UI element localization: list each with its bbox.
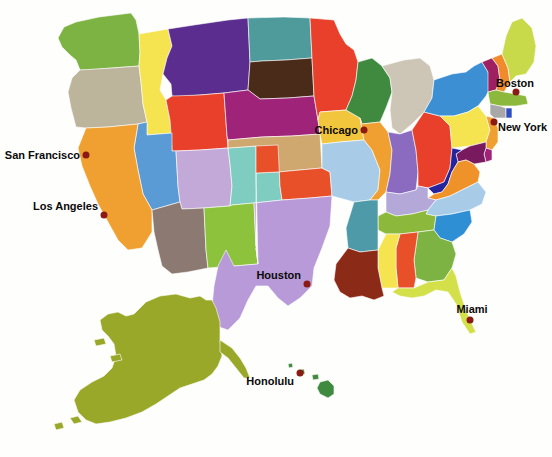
us-map-svg bbox=[0, 0, 552, 457]
state-ND[interactable] bbox=[248, 17, 312, 62]
state-AR[interactable] bbox=[346, 200, 378, 252]
city-marker-san-francisco[interactable] bbox=[83, 152, 90, 159]
city-marker-honolulu[interactable] bbox=[297, 370, 304, 377]
city-marker-houston[interactable] bbox=[304, 281, 311, 288]
state-RI[interactable] bbox=[506, 108, 512, 118]
city-marker-miami[interactable] bbox=[467, 317, 474, 324]
city-marker-new-york[interactable] bbox=[491, 119, 498, 126]
state-NY[interactable] bbox=[424, 62, 492, 116]
state-AK-panhandle bbox=[220, 340, 250, 378]
state-HI-bigisland[interactable] bbox=[317, 380, 334, 398]
state-HI-kauai bbox=[288, 363, 293, 368]
state-AK-island-1 bbox=[94, 338, 106, 346]
state-MA[interactable] bbox=[488, 90, 528, 106]
city-label-honolulu: Honolulu bbox=[246, 376, 294, 387]
city-label-boston: Boston bbox=[496, 78, 534, 89]
state-SD[interactable] bbox=[248, 58, 314, 99]
state-UT[interactable] bbox=[176, 148, 232, 209]
state-IN[interactable] bbox=[386, 130, 418, 194]
state-LA[interactable] bbox=[334, 248, 384, 300]
city-label-houston: Houston bbox=[256, 270, 301, 281]
state-AZ[interactable] bbox=[152, 202, 208, 274]
city-label-los-angeles: Los Angeles bbox=[33, 201, 98, 212]
state-WA[interactable] bbox=[58, 13, 140, 70]
state-NM[interactable] bbox=[204, 203, 258, 268]
state-AK-aleutian-1 bbox=[70, 416, 82, 424]
us-map: San Francisco Los Angeles Chicago Housto… bbox=[0, 0, 552, 457]
city-marker-boston[interactable] bbox=[513, 89, 520, 96]
state-AK-aleutian-2 bbox=[54, 422, 64, 430]
state-AK[interactable] bbox=[74, 294, 222, 424]
city-label-chicago: Chicago bbox=[315, 125, 358, 136]
state-MT[interactable] bbox=[163, 18, 250, 97]
state-HI-maui bbox=[312, 374, 319, 380]
city-marker-los-angeles[interactable] bbox=[101, 212, 108, 219]
state-OR[interactable] bbox=[68, 66, 147, 128]
city-label-new-york: New York bbox=[498, 122, 547, 133]
city-label-miami: Miami bbox=[456, 304, 487, 315]
state-WY[interactable] bbox=[166, 93, 228, 151]
city-label-san-francisco: San Francisco bbox=[5, 150, 80, 161]
city-marker-chicago[interactable] bbox=[361, 127, 368, 134]
